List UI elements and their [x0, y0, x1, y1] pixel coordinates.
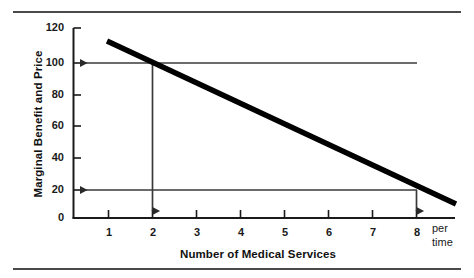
x-tick-label-4: 4 [231, 226, 251, 238]
marginal-benefit-curve [107, 41, 456, 204]
x-axis-title: Number of Medical Services [73, 248, 443, 260]
x-tick-label-7: 7 [363, 226, 383, 238]
x-axis-ticks [109, 210, 417, 218]
x-tick-label-8: 8 [407, 226, 427, 238]
x-tick-label-2: 2 [143, 226, 163, 238]
y-axis-title: Marginal Benefit and Price [32, 34, 44, 214]
x-tick-label-6: 6 [319, 226, 339, 238]
x-tick-label-3: 3 [187, 226, 207, 238]
axis-unit-note-line-1: per [432, 221, 453, 235]
axis-unit-note-line-2: time [432, 235, 453, 249]
axis-unit-note: per time [432, 221, 453, 249]
y-axis-ticks [74, 28, 82, 190]
x-tick-label-5: 5 [275, 226, 295, 238]
y-tick-label-120: 120 [30, 21, 64, 33]
chart-figure: 120 100 80 60 40 20 0 1 2 3 4 5 6 7 8 pe… [0, 0, 474, 278]
x-tick-label-1: 1 [99, 226, 119, 238]
